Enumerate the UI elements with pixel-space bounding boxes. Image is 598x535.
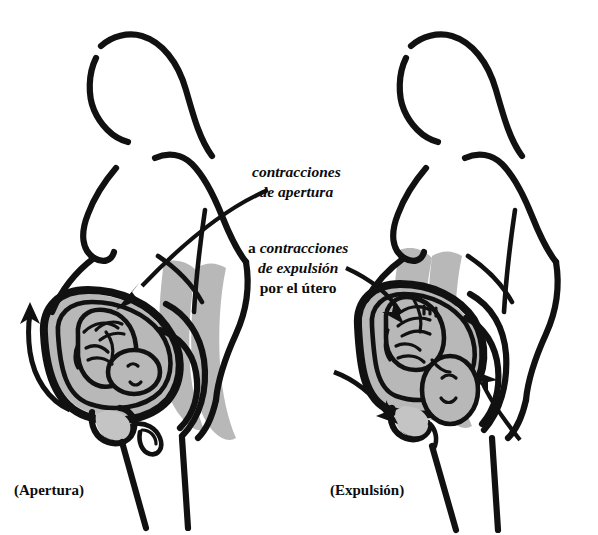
callout-expulsion-lead: a — [248, 239, 260, 256]
right-leg-back — [492, 438, 498, 530]
left-breast — [83, 168, 116, 261]
right-buttock — [508, 400, 526, 438]
left-leg-front — [122, 442, 146, 528]
callout-expulsion-line2: de expulsión — [248, 258, 348, 278]
callout-apertura: contracciones de apertura — [252, 162, 341, 202]
left-leg-back — [182, 438, 188, 528]
left-face-profile — [90, 58, 128, 142]
callout-expulsion: a contracciones de expulsión por el úter… — [248, 238, 348, 297]
stage-label-expulsion: (Expulsión) — [330, 482, 404, 499]
right-back — [526, 262, 558, 400]
right-breast — [393, 168, 426, 261]
right-leg-front — [432, 446, 456, 530]
left-figure-group — [20, 34, 248, 528]
callout-expulsion-line1-text: contracciones — [260, 239, 349, 256]
right-figure-group — [334, 34, 558, 530]
callout-expulsion-line3: por el útero — [248, 278, 348, 298]
stage-label-apertura: (Apertura) — [14, 482, 84, 499]
callout-apertura-line2: de apertura — [252, 182, 341, 202]
callout-apertura-line1: contracciones — [252, 162, 341, 182]
callout-expulsion-line1: a contracciones — [248, 238, 348, 258]
right-face-profile — [400, 58, 438, 142]
childbirth-stages-figure: contracciones de apertura a contraccione… — [0, 0, 598, 535]
